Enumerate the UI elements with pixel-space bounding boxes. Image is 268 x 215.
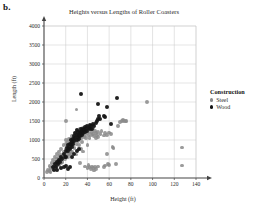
y-tick-label: 3500 bbox=[14, 42, 40, 48]
y-tick-label: 2000 bbox=[14, 99, 40, 105]
x-tick-label: 80 bbox=[122, 181, 140, 187]
x-tick-label: 20 bbox=[57, 181, 75, 187]
data-point-steel bbox=[64, 138, 68, 142]
legend-label-wood: Wood bbox=[216, 104, 230, 110]
legend-label-steel: Steel bbox=[216, 97, 228, 103]
y-tick-label: 3000 bbox=[14, 61, 40, 67]
legend-marker-steel-icon bbox=[210, 98, 213, 101]
legend-title: Construction bbox=[210, 88, 266, 95]
figure-container: b. Heights versus Lengths of Roller Coas… bbox=[0, 0, 268, 215]
data-point-wood bbox=[103, 115, 107, 119]
data-point-steel bbox=[125, 119, 129, 123]
data-point-steel bbox=[116, 124, 120, 128]
legend-item-steel: Steel bbox=[210, 97, 266, 103]
data-point-wood bbox=[79, 92, 83, 96]
x-tick-label: 0 bbox=[35, 181, 53, 187]
data-point-steel bbox=[64, 119, 68, 123]
legend-marker-wood-icon bbox=[210, 105, 213, 108]
data-point-steel bbox=[180, 164, 184, 168]
data-point-wood bbox=[77, 147, 81, 151]
data-point-wood bbox=[68, 165, 72, 169]
x-tick-label: 140 bbox=[187, 181, 205, 187]
data-point-steel bbox=[78, 161, 82, 165]
x-tick-label: 120 bbox=[165, 181, 183, 187]
y-tick-label: 500 bbox=[14, 156, 40, 162]
legend-item-wood: Wood bbox=[210, 104, 266, 110]
x-tick-label: 40 bbox=[78, 181, 96, 187]
y-tick-label: 2500 bbox=[14, 80, 40, 86]
data-point-wood bbox=[96, 102, 100, 106]
y-tick-label: 0 bbox=[14, 175, 40, 181]
data-point-wood bbox=[64, 155, 68, 159]
data-point-wood bbox=[70, 155, 74, 159]
y-tick-label: 1000 bbox=[14, 137, 40, 143]
y-tick-label: 1500 bbox=[14, 118, 40, 124]
data-point-steel bbox=[105, 152, 109, 156]
x-tick-label: 100 bbox=[144, 181, 162, 187]
data-point-steel bbox=[107, 163, 111, 167]
data-point-wood bbox=[115, 96, 119, 100]
data-point-wood bbox=[105, 105, 109, 109]
data-point-steel bbox=[114, 162, 118, 166]
x-tick-label: 60 bbox=[100, 181, 118, 187]
y-tick-label: 4000 bbox=[14, 23, 40, 29]
legend: Construction Steel Wood bbox=[210, 88, 266, 110]
